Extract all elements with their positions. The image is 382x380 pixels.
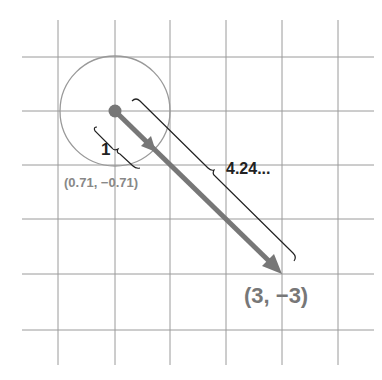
unit-coords-label: (0.71, −0.71) <box>64 175 138 190</box>
vector-length-label: 4.24... <box>226 160 270 178</box>
vector-diagram <box>0 0 382 380</box>
vector-length-brace <box>132 99 295 261</box>
unit-length-label: 1 <box>101 140 110 160</box>
endpoint-label: (3, −3) <box>244 283 308 309</box>
